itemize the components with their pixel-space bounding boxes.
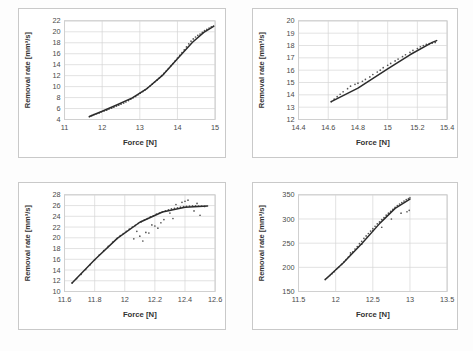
chart-panel-bottom-left: 1012141618202224262811.611.81212.212.412…: [18, 182, 226, 330]
y-axis-title: Removal rate [mm³/s]: [23, 32, 32, 109]
y-tick-label: 19: [286, 29, 294, 38]
x-tick-label: 12: [121, 295, 129, 304]
x-tick-label: 15: [384, 123, 392, 132]
y-tick-label: 18: [52, 38, 60, 47]
y-tick-label: 17: [286, 53, 294, 62]
y-tick-label: 20: [52, 233, 60, 242]
y-tick-label: 16: [286, 66, 294, 75]
x-tick-label: 12: [98, 123, 106, 132]
x-tick-label: 11.6: [58, 295, 72, 304]
x-axis-title: Force [N]: [123, 310, 157, 319]
y-tick-label: 14: [52, 266, 60, 275]
x-tick-label: 15: [211, 123, 219, 132]
y-tick-label: 26: [52, 201, 60, 210]
y-tick-label: 24: [52, 212, 60, 221]
chart-bottom-right: 15020025030035011.51212.51313.5Force [N]…: [253, 183, 457, 329]
y-tick-label: 18: [286, 41, 294, 50]
x-tick-label: 14.4: [291, 123, 305, 132]
x-axis-title: Force [N]: [356, 138, 390, 147]
x-tick-label: 11: [61, 123, 69, 132]
chart-panel-top-right: 12131415161718192014.414.614.81515.215.4…: [252, 8, 458, 158]
x-tick-label: 12.2: [148, 295, 162, 304]
x-tick-label: 11.5: [292, 295, 306, 304]
y-tick-label: 350: [282, 190, 294, 199]
y-tick-label: 16: [52, 255, 60, 264]
y-tick-label: 15: [286, 78, 294, 87]
chart-top-left: 468101214161820221112131415Force [N]Remo…: [19, 9, 225, 157]
y-tick-label: 200: [282, 263, 294, 272]
y-tick-label: 300: [282, 215, 294, 224]
y-tick-label: 22: [52, 223, 60, 232]
chart-panel-top-left: 468101214161820221112131415Force [N]Remo…: [18, 8, 226, 158]
y-tick-label: 28: [52, 190, 60, 199]
y-tick-label: 12: [52, 276, 60, 285]
chart-top-right: 12131415161718192014.414.614.81515.215.4…: [253, 9, 457, 157]
y-axis-title: Removal rate [mm³/s]: [23, 205, 32, 282]
x-tick-label: 14: [173, 123, 181, 132]
y-axis-title: Removal rate [mm³/s]: [257, 205, 266, 282]
y-tick-label: 12: [52, 71, 60, 80]
y-tick-label: 14: [52, 60, 60, 69]
x-tick-label: 12.5: [366, 295, 380, 304]
x-tick-label: 13.5: [440, 295, 454, 304]
x-tick-label: 14.8: [351, 123, 365, 132]
y-tick-label: 6: [57, 104, 61, 113]
x-tick-label: 12: [332, 295, 340, 304]
x-tick-label: 13: [136, 123, 144, 132]
y-tick-label: 14: [286, 90, 294, 99]
x-tick-label: 14.6: [321, 123, 335, 132]
y-tick-label: 13: [286, 103, 294, 112]
x-tick-label: 12.4: [178, 295, 192, 304]
chart-bottom-left: 1012141618202224262811.611.81212.212.412…: [19, 183, 225, 329]
x-axis-title: Force [N]: [123, 138, 157, 147]
y-tick-label: 20: [286, 16, 294, 25]
four-panel-figure: 468101214161820221112131415Force [N]Remo…: [0, 0, 473, 351]
x-tick-label: 13: [406, 295, 414, 304]
y-tick-label: 250: [282, 239, 294, 248]
y-tick-label: 20: [52, 27, 60, 36]
y-tick-label: 18: [52, 244, 60, 253]
y-tick-label: 16: [52, 49, 60, 58]
x-tick-label: 12.6: [208, 295, 222, 304]
x-tick-label: 11.8: [88, 295, 102, 304]
y-axis-title: Removal rate [mm³/s]: [257, 32, 266, 109]
y-tick-label: 22: [52, 16, 60, 25]
x-tick-label: 15.2: [410, 123, 424, 132]
chart-panel-bottom-right: 15020025030035011.51212.51313.5Force [N]…: [252, 182, 458, 330]
x-tick-label: 15.4: [440, 123, 454, 132]
y-tick-label: 10: [52, 82, 60, 91]
y-tick-label: 8: [57, 93, 61, 102]
x-axis-title: Force [N]: [356, 310, 390, 319]
